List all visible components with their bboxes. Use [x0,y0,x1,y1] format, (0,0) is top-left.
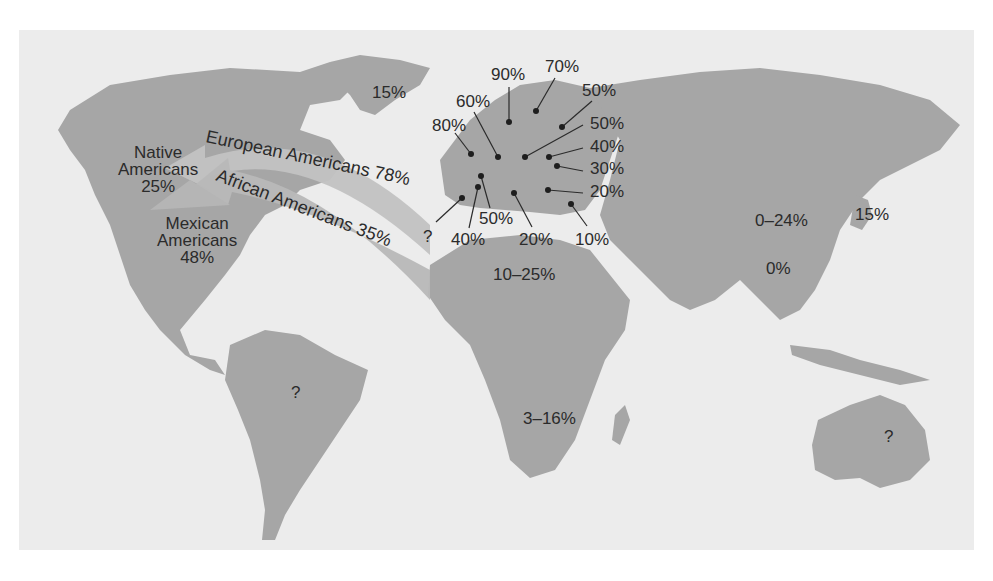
south-america-label: ? [291,384,300,401]
south-america [225,330,368,540]
mexican-line1: Mexican [157,215,237,232]
australia-label: ? [884,428,893,445]
native-americans-label: Native Americans 25% [118,144,198,195]
native-line2: Americans [118,161,198,178]
australia [812,395,930,488]
mexican-line2: Americans [157,232,237,249]
mexican-americans-label: Mexican Americans 48% [157,215,237,266]
europe-20-e: 20% [590,183,624,200]
europe-70: 70% [545,58,579,75]
southeast-asia-label: 0% [766,260,791,277]
indonesia [790,345,930,385]
native-value: 25% [118,178,198,195]
europe-60: 60% [456,93,490,110]
europe-90: 90% [491,66,525,83]
japan-label: 15% [855,206,889,223]
europe-10-se: 10% [575,231,609,248]
south-africa-label: 3–16% [523,410,576,427]
europe-question-w: ? [423,228,432,245]
native-line1: Native [118,144,198,161]
europe-30-e: 30% [590,160,624,177]
china-label: 0–24% [755,212,808,229]
europe-40-sw: 40% [451,231,485,248]
europe-50-e: 50% [590,115,624,132]
europe-50-s: 50% [479,210,513,227]
europe-80: 80% [432,117,466,134]
asia [590,68,960,320]
mexican-value: 48% [157,249,237,266]
europe-20-s: 20% [519,231,553,248]
madagascar [612,405,630,445]
world-map: European Americans 78% African Americans… [0,0,993,581]
europe-50-ne: 50% [582,82,616,99]
north-africa-label: 10–25% [493,266,555,283]
greenland-label: 15% [372,84,406,101]
europe-40-e: 40% [590,138,624,155]
